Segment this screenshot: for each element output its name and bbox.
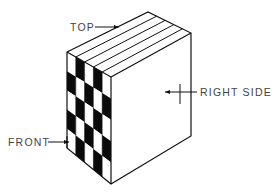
label-front: FRONT <box>8 136 50 148</box>
block-diagram: TOP RIGHT SIDE FRONT <box>0 0 277 196</box>
label-top: TOP <box>70 21 95 33</box>
label-right-side: RIGHT SIDE <box>200 86 272 98</box>
